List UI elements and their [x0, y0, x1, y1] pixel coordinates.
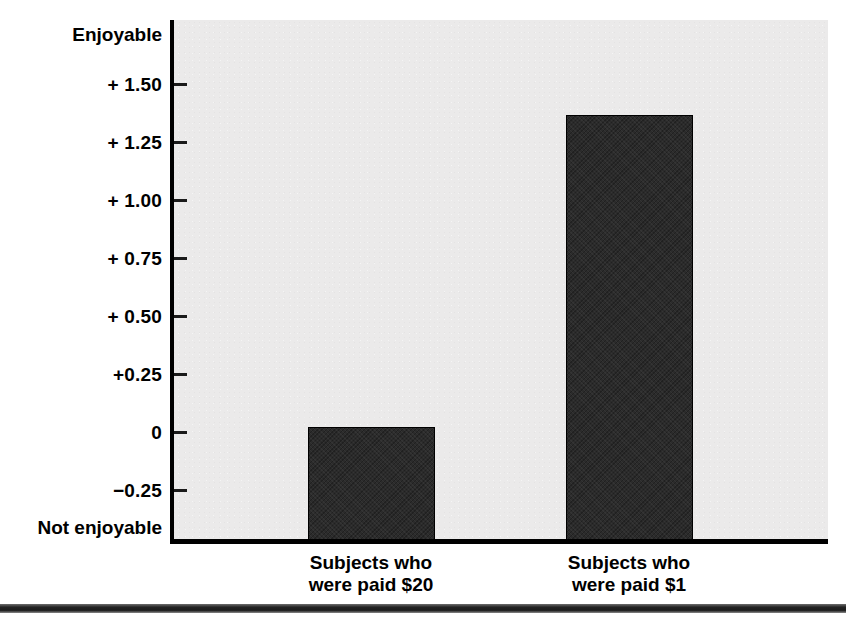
tick-mark-0-50	[174, 315, 187, 318]
y-axis-top-endpoint-label: Enjoyable	[72, 25, 162, 44]
tick-mark-1-25	[174, 141, 187, 144]
tick-label-neg-0-25: −0.25	[113, 481, 162, 500]
category-label-paid-20: Subjects who were paid $20	[256, 552, 486, 597]
bar-chart-figure: Enjoyable Not enjoyable + 1.50 + 1.25 + …	[0, 0, 846, 623]
bar-subjects-paid-20	[308, 427, 435, 540]
tick-mark-1-00	[174, 199, 187, 202]
category-label-paid-1-line1: Subjects who	[514, 552, 744, 574]
tick-mark-1-50	[174, 83, 187, 86]
tick-mark-0-75	[174, 257, 187, 260]
category-label-paid-20-line1: Subjects who	[256, 552, 486, 574]
x-axis-line	[170, 539, 828, 544]
category-label-paid-1: Subjects who were paid $1	[514, 552, 744, 597]
tick-label-1-00: + 1.00	[107, 191, 162, 210]
tick-label-0: 0	[151, 423, 162, 442]
tick-label-0-25: +0.25	[113, 365, 162, 384]
bottom-rule	[0, 604, 846, 613]
y-axis-line	[170, 20, 174, 542]
tick-mark-0	[174, 431, 187, 434]
bar-subjects-paid-1	[566, 115, 693, 540]
y-axis-bottom-endpoint-label: Not enjoyable	[37, 518, 162, 537]
tick-mark-neg-0-25	[174, 489, 187, 492]
category-label-paid-1-line2: were paid $1	[514, 574, 744, 596]
plot-area	[172, 20, 828, 541]
tick-label-1-50: + 1.50	[107, 75, 162, 94]
tick-label-0-75: + 0.75	[107, 249, 162, 268]
tick-label-0-50: + 0.50	[107, 307, 162, 326]
tick-label-1-25: + 1.25	[107, 133, 162, 152]
tick-mark-0-25	[174, 373, 187, 376]
category-label-paid-20-line2: were paid $20	[256, 574, 486, 596]
